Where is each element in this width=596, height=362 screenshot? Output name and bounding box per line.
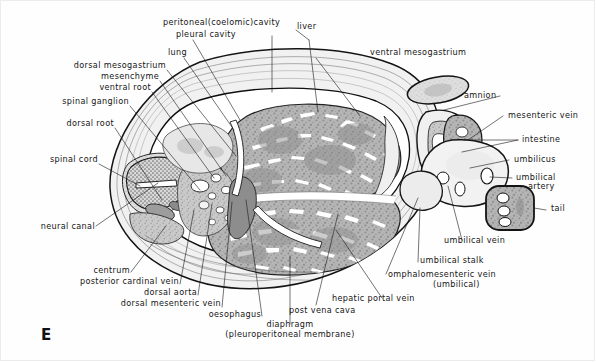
label-amnion: amnion bbox=[464, 91, 496, 100]
label-neural-canal: neural canal bbox=[0, 222, 95, 231]
label-ventral-mesogastrium: ventral mesogastrium bbox=[370, 48, 466, 57]
label-ventral-root: ventral root bbox=[0, 83, 151, 92]
label-umbilical-stalk: umbilical stalk bbox=[420, 256, 484, 265]
label-lung: lung bbox=[168, 48, 187, 57]
label-spinal-cord: spinal cord bbox=[0, 155, 98, 164]
label-pleural-cavity: pleural cavity bbox=[176, 30, 236, 39]
label-dorsal-aorta: dorsal aorta bbox=[0, 288, 197, 297]
label-hepatic-portal-vein: hepatic portal vein bbox=[332, 294, 415, 303]
label-peritoneal-cavity: peritoneal(coelomic)cavity bbox=[163, 18, 280, 27]
label-centrum: centrum bbox=[0, 266, 130, 275]
label-dorsal-mesenteric-vein: dorsal mesenteric vein bbox=[0, 299, 221, 308]
label-posterior-cardinal-vein: posterior cardinal vein bbox=[0, 277, 179, 286]
panel-letter: E bbox=[41, 326, 52, 344]
label-tail: tail bbox=[551, 204, 565, 213]
label-omphalomesenteric-vein-alt: (umbilical) bbox=[433, 280, 480, 289]
label-omphalomesenteric-vein: omphalomesenteric vein bbox=[388, 270, 496, 279]
label-spinal-ganglion: spinal ganglion bbox=[0, 97, 129, 106]
figure-panel: peritoneal(coelomic)cavity pleural cavit… bbox=[0, 0, 596, 362]
label-intestine: intestine bbox=[522, 135, 560, 144]
label-mesenchyme: mesenchyme bbox=[0, 72, 159, 81]
label-mesenteric-vein: mesenteric vein bbox=[508, 111, 578, 120]
label-liver: liver bbox=[297, 22, 316, 31]
label-oesophagus: oesophagus bbox=[0, 310, 261, 319]
label-pleuroperitoneal-membrane: (pleuroperitoneal membrane) bbox=[208, 330, 372, 339]
label-diaphragm: diaphragm bbox=[230, 320, 350, 329]
label-post-vena-cava: post vena cava bbox=[289, 306, 356, 315]
label-dorsal-root: dorsal root bbox=[0, 119, 114, 128]
label-umbilical-artery-second-line: artery bbox=[528, 182, 555, 191]
label-umbilical-vein: umbilical vein bbox=[444, 236, 505, 245]
label-dorsal-mesogastrium: dorsal mesogastrium bbox=[0, 61, 166, 70]
label-umbilicus: umbilicus bbox=[514, 155, 556, 164]
